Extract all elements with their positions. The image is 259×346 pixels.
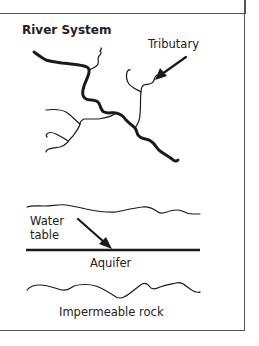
water-table-label-line2: table	[30, 229, 59, 242]
tributary-arrow-head	[155, 68, 167, 80]
tributary-left	[46, 113, 116, 152]
impermeable-rock-label: Impermeable rock	[59, 306, 164, 319]
tributary-label: Tributary	[148, 38, 199, 51]
main-river	[34, 52, 178, 161]
tributary-right	[135, 75, 157, 128]
tributary-left-upper-branch	[46, 109, 80, 124]
ground-surface-line	[27, 205, 200, 214]
tributary-left-lower-branch	[46, 133, 68, 142]
tributary-right-branch	[126, 70, 141, 92]
water-table-label-line1: Water	[30, 215, 64, 228]
diagram-title: River System	[22, 24, 111, 37]
river-groundwater-diagram	[0, 0, 259, 346]
tributary-top-small	[89, 48, 101, 70]
impermeable-rock-boundary-line	[27, 283, 200, 298]
aquifer-label: Aquifer	[90, 257, 131, 270]
water-table-arrow-shaft	[78, 219, 104, 242]
tributary-arrow-shaft	[162, 57, 186, 74]
